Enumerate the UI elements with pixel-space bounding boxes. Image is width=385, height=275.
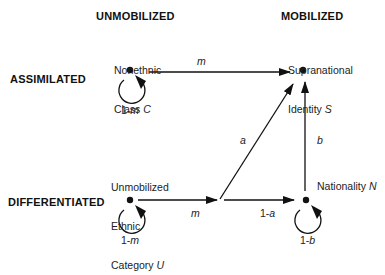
node-u-label: Unmobilized Ethnic Category U [111, 155, 169, 275]
row-header-differentiated: DIFFERENTIATED [8, 196, 105, 208]
edge-junction-to-s [220, 84, 293, 199]
node-u-line2: Ethnic [111, 220, 169, 233]
edge-label-n-to-s: b [317, 134, 323, 146]
column-header-unmobilized: UNMOBILIZED [96, 10, 175, 22]
node-u-line1: Unmobilized [111, 181, 169, 194]
node-s-label: Supranational Identity S [288, 38, 353, 129]
node-n-line1: Nationality [317, 180, 369, 192]
node-u-symbol: U [157, 259, 165, 271]
node-c-line1: Nonethnic [114, 64, 161, 77]
edge-label-junction-to-s: a [240, 134, 246, 146]
edge-label-junction-to-n: 1-a [260, 207, 275, 219]
self-loop-u-label: 1-m [121, 234, 139, 246]
edge-label-u-to-junction: m [191, 207, 200, 219]
edge-label-c-to-s: m [197, 55, 206, 67]
node-c-symbol: C [143, 103, 151, 115]
node-n-dot [303, 197, 309, 203]
self-loop-c-label: 1-m [121, 104, 139, 116]
self-loop-n-label: 1-b [300, 234, 315, 246]
node-n-symbol: N [369, 180, 377, 192]
row-header-assimilated: ASSIMILATED [10, 73, 86, 85]
node-s-line2: Identity [288, 103, 325, 115]
node-n-label: Nationality N [317, 180, 377, 193]
node-u-line3: Category [111, 259, 157, 271]
self-loop-n [295, 205, 322, 233]
node-s-line1: Supranational [288, 64, 353, 77]
node-s-symbol: S [325, 103, 332, 115]
column-header-mobilized: MOBILIZED [281, 10, 343, 22]
